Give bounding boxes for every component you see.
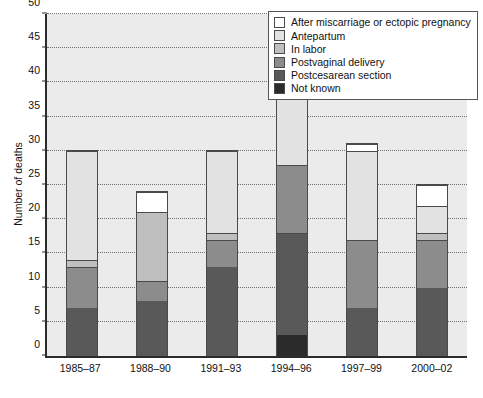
y-tick-label: 10 <box>28 270 47 282</box>
y-tick-label: 0 <box>34 338 47 350</box>
legend-label: In labor <box>291 44 326 55</box>
legend-swatch <box>274 83 285 94</box>
y-tick-label: 5 <box>34 304 47 316</box>
bar-slot <box>187 14 257 356</box>
legend-label: Not known <box>291 83 341 94</box>
y-tick-label: 25 <box>28 167 47 179</box>
bar-segment[interactable] <box>67 308 97 356</box>
bar-segment[interactable] <box>347 151 377 240</box>
x-tick-label: 1985–87 <box>45 362 115 374</box>
stacked-bar[interactable] <box>346 143 378 356</box>
legend-label: Postcesarean section <box>291 70 391 81</box>
y-tick-label: 45 <box>28 30 47 42</box>
legend-item[interactable]: Postvaginal delivery <box>274 56 471 69</box>
stacked-bar[interactable] <box>206 150 238 356</box>
legend-item[interactable]: After miscarriage or ectopic pregnancy <box>274 16 471 29</box>
y-tick-label: 35 <box>28 99 47 111</box>
bar-segment[interactable] <box>67 267 97 308</box>
stacked-bar[interactable] <box>66 150 98 356</box>
y-tick-label: 30 <box>28 133 47 145</box>
bar-segment[interactable] <box>347 144 377 151</box>
bar-segment[interactable] <box>417 288 447 356</box>
bar-segment[interactable] <box>67 151 97 260</box>
legend-swatch <box>274 30 285 41</box>
bar-segment[interactable] <box>137 212 167 280</box>
x-tick-label: 2000–02 <box>397 362 467 374</box>
stacked-bar[interactable] <box>416 184 448 356</box>
y-tick-label: 50 <box>28 0 47 8</box>
bar-segment[interactable] <box>417 206 447 233</box>
x-axis-labels: 1985–871988–901991–931994–961997–992000–… <box>45 362 467 382</box>
legend-item[interactable]: Postcesarean section <box>274 69 471 82</box>
bar-segment[interactable] <box>417 233 447 240</box>
legend-swatch <box>274 70 285 81</box>
stacked-bar-chart: Number of deaths 05101520253035404550 19… <box>0 0 483 398</box>
legend-label: Postvaginal delivery <box>291 57 384 68</box>
bar-segment[interactable] <box>67 260 97 267</box>
bar-segment[interactable] <box>207 233 237 240</box>
legend-item[interactable]: In labor <box>274 42 471 55</box>
x-tick-label: 1991–93 <box>186 362 256 374</box>
bar-segment[interactable] <box>277 335 307 356</box>
bar-segment[interactable] <box>207 240 237 267</box>
bar-segment[interactable] <box>417 185 447 206</box>
bar-segment[interactable] <box>417 240 447 288</box>
stacked-bar[interactable] <box>136 191 168 356</box>
y-tick-label: 40 <box>28 64 47 76</box>
bar-slot <box>117 14 187 356</box>
legend-swatch <box>274 17 285 28</box>
bar-segment[interactable] <box>207 151 237 233</box>
legend-swatch <box>274 57 285 68</box>
bar-segment[interactable] <box>347 240 377 308</box>
legend-swatch <box>274 43 285 54</box>
legend-item[interactable]: Not known <box>274 82 471 95</box>
y-tick-label: 15 <box>28 235 47 247</box>
bar-segment[interactable] <box>277 233 307 336</box>
legend-label: After miscarriage or ectopic pregnancy <box>291 17 471 28</box>
legend-label: Antepartum <box>291 31 345 42</box>
bar-segment[interactable] <box>137 301 167 356</box>
x-tick-label: 1988–90 <box>115 362 185 374</box>
x-tick-label: 1997–99 <box>326 362 396 374</box>
bar-segment[interactable] <box>277 165 307 233</box>
bar-segment[interactable] <box>207 267 237 356</box>
bar-slot <box>47 14 117 356</box>
x-tick-label: 1994–96 <box>256 362 326 374</box>
legend: After miscarriage or ectopic pregnancyAn… <box>268 11 478 100</box>
bar-segment[interactable] <box>137 192 167 213</box>
y-axis-title: Number of deaths <box>12 114 24 254</box>
bar-segment[interactable] <box>137 281 167 302</box>
y-tick-label: 20 <box>28 201 47 213</box>
bar-segment[interactable] <box>347 308 377 356</box>
legend-item[interactable]: Antepartum <box>274 29 471 42</box>
